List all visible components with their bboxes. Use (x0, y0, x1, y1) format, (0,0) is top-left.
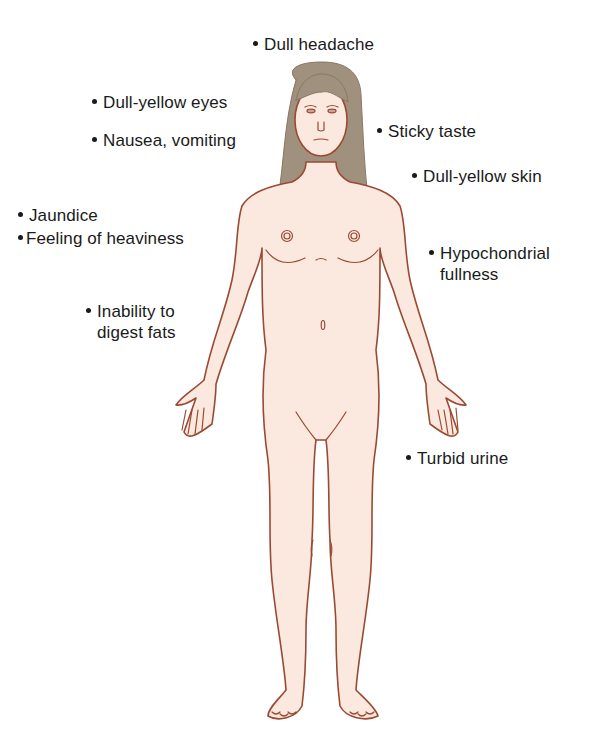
label-feeling-of-heaviness: Feeling of heaviness (18, 228, 184, 249)
female-body-figure (0, 0, 596, 737)
bullet-icon (18, 235, 23, 240)
bullet-icon (18, 212, 23, 217)
body-outline (176, 162, 466, 719)
label-dull-yellow-skin: Dull-yellow skin (412, 166, 542, 187)
label-hypochondrial-fullness: Hypochondrial fullness (429, 243, 550, 285)
bullet-icon (412, 173, 417, 178)
label-jaundice: Jaundice (18, 205, 98, 226)
bullet-icon (377, 128, 382, 133)
bullet-icon (253, 41, 258, 46)
bullet-icon (406, 455, 411, 460)
bullet-icon (429, 250, 434, 255)
label-nausea-vomiting: Nausea, vomiting (92, 130, 236, 151)
bullet-icon (92, 137, 97, 142)
label-inability-to-digest-fats: Inability to digest fats (86, 301, 176, 343)
bullet-icon (92, 99, 97, 104)
label-dull-headache: Dull headache (253, 34, 374, 55)
label-turbid-urine: Turbid urine (406, 448, 508, 469)
bullet-icon (86, 308, 91, 313)
label-sticky-taste: Sticky taste (377, 121, 476, 142)
label-dull-yellow-eyes: Dull-yellow eyes (92, 92, 227, 113)
